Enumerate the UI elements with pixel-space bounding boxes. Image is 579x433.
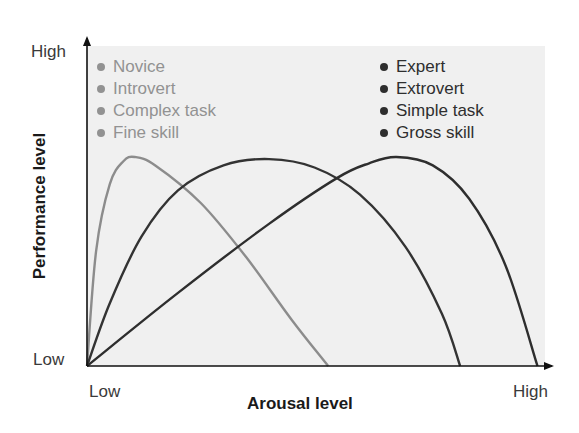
legend-high-arousal-group: Expert Extrovert Simple task Gross skill: [380, 56, 484, 144]
legend-item: Simple task: [380, 100, 484, 122]
legend-item: Extrovert: [380, 78, 484, 100]
legend-bullet-icon: [380, 63, 388, 71]
plot-svg: [0, 0, 579, 433]
legend-bullet-icon: [380, 129, 388, 137]
legend-item: Complex task: [97, 100, 216, 122]
legend-item: Fine skill: [97, 122, 216, 144]
legend-item: Novice: [97, 56, 216, 78]
series-layer: [87, 157, 538, 366]
legend-bullet-icon: [97, 85, 105, 93]
y-axis-title: Performance level: [30, 133, 50, 279]
series-line-2: [87, 157, 538, 366]
series-line-0: [87, 157, 328, 366]
legend-bullet-icon: [97, 107, 105, 115]
y-tick-low: Low: [33, 350, 64, 370]
x-axis-title: Arousal level: [247, 394, 353, 414]
legend-bullet-icon: [97, 63, 105, 71]
series-line-1: [87, 159, 460, 366]
legend-low-arousal-group: Novice Introvert Complex task Fine skill: [97, 56, 216, 144]
legend-bullet-icon: [380, 107, 388, 115]
x-tick-high: High: [513, 382, 548, 402]
x-tick-low: Low: [89, 382, 120, 402]
legend-item: Introvert: [97, 78, 216, 100]
legend-bullet-icon: [380, 85, 388, 93]
legend-item: Gross skill: [380, 122, 484, 144]
legend-item: Expert: [380, 56, 484, 78]
legend-bullet-icon: [97, 129, 105, 137]
y-tick-high: High: [31, 42, 66, 62]
